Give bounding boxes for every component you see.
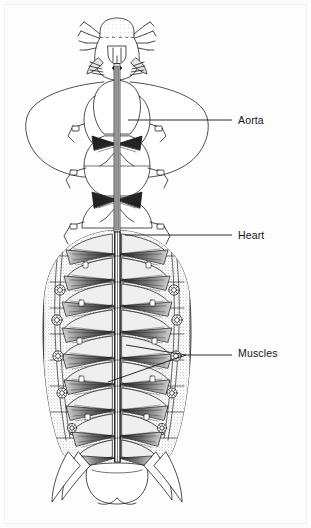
figure-root: Aorta Heart Muscles [0,0,311,528]
dorsal-vessel [114,64,120,462]
whole-organism [26,18,208,504]
label-muscles: Muscles [238,348,278,359]
label-aorta: Aorta [238,115,264,126]
anatomical-diagram [0,0,311,528]
label-heart: Heart [238,230,264,241]
terminal-segment [86,463,148,504]
